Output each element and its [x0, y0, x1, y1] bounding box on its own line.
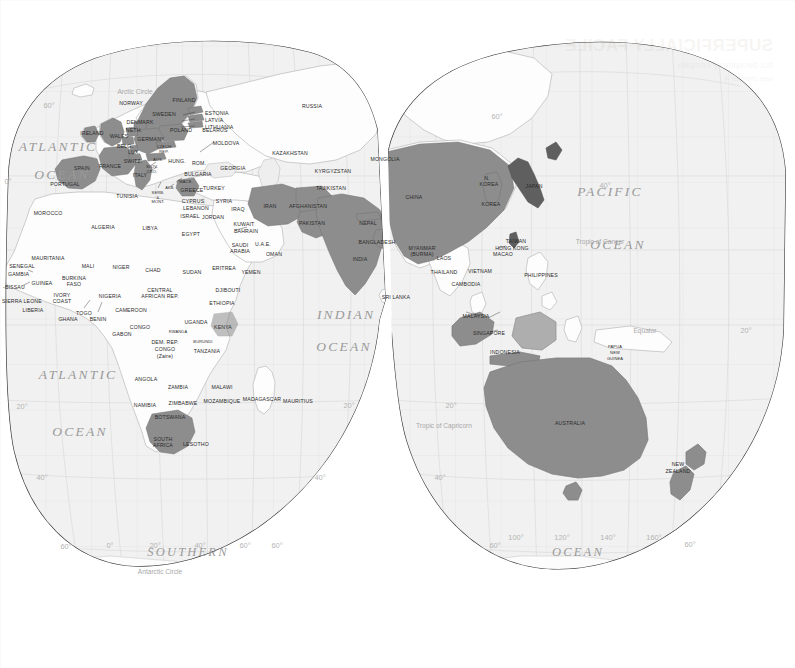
world-map-figure: SUPERFICIALLY FACILE but deceptively com…: [0, 0, 795, 668]
map-canvas: [0, 0, 795, 668]
